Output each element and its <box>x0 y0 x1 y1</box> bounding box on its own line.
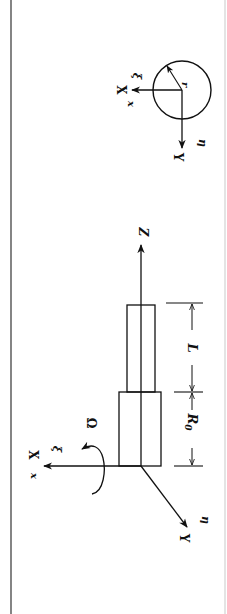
rotation-arc-icon <box>82 446 104 494</box>
base-radius-label: R0 <box>183 412 200 431</box>
cross-section-view: r X x ξ Y η <box>114 61 211 162</box>
length-label: L <box>185 342 200 352</box>
cs-y-label: Y <box>171 152 185 162</box>
x-axis-label: X <box>26 450 40 460</box>
cs-x-label: X <box>114 85 128 95</box>
y-axis-label: Y <box>177 533 191 543</box>
z-axis-label: Z <box>136 227 150 238</box>
cs-eta-label: η <box>196 139 209 147</box>
shaft-main-view: Z X x ξ Ω Y η L R0 <box>26 227 212 543</box>
cs-radius-label: r <box>180 82 191 88</box>
cs-x-lower-label: x <box>126 100 137 108</box>
eta-label: η <box>199 516 212 524</box>
shaft-diagram: r X x ξ Y η Z X x ξ Ω Y η L <box>0 0 227 614</box>
y-axis-arrow <box>141 466 187 527</box>
x-lower-label: x <box>29 472 40 480</box>
svg-text:R0: R0 <box>183 412 200 431</box>
xi-label: ξ <box>50 446 63 453</box>
base-cylinder <box>119 392 161 466</box>
cs-radius-arrow <box>167 66 182 90</box>
omega-label: Ω <box>84 418 98 429</box>
cs-xi-label: ξ <box>130 73 143 80</box>
